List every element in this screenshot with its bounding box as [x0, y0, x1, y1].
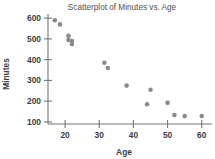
x-tick-label: 60 [197, 130, 207, 140]
y-tick-label: 600 [27, 13, 41, 23]
y-tick-label: 100 [27, 117, 41, 127]
x-tick-label: 50 [163, 130, 173, 140]
data-point [199, 114, 204, 119]
data-point [53, 18, 58, 23]
scatterplot-figure: Scatterplot of Minutes vs. Age Age Minut… [0, 0, 215, 159]
x-axis-ticks: 2030405060 [60, 120, 206, 140]
data-point [102, 60, 107, 65]
y-tick-label: 300 [27, 75, 41, 85]
chart-title: Scatterplot of Minutes vs. Age [68, 3, 177, 12]
y-axis-title: Minutes [1, 58, 11, 90]
x-axis-title: Age [116, 147, 132, 157]
x-tick-label: 30 [95, 130, 105, 140]
data-point [148, 87, 153, 92]
x-tick-label: 40 [129, 130, 139, 140]
chart-canvas: Scatterplot of Minutes vs. Age Age Minut… [0, 0, 215, 159]
data-point [172, 113, 177, 118]
data-points-layer [53, 18, 205, 118]
data-point [105, 66, 110, 71]
y-tick-label: 200 [27, 96, 41, 106]
data-point [124, 83, 129, 88]
data-point [58, 22, 63, 27]
data-point [145, 102, 150, 107]
data-point [70, 42, 75, 47]
data-point [66, 33, 71, 38]
y-tick-label: 500 [27, 34, 41, 44]
y-tick-label: 400 [27, 55, 41, 65]
x-tick-label: 20 [60, 130, 70, 140]
data-point [182, 114, 187, 119]
data-point [165, 101, 170, 106]
